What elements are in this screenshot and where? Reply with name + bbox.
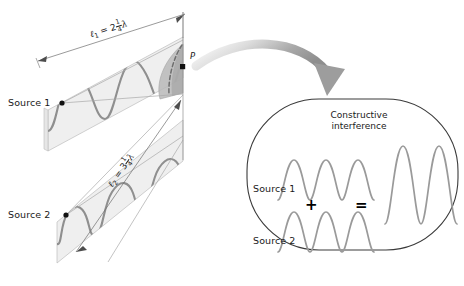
source2-dot — [63, 212, 68, 217]
path1-equals: = — [99, 24, 109, 36]
equals-operator: = — [355, 198, 368, 213]
path1-subscript: 1 — [93, 31, 99, 40]
point-p-dot — [180, 64, 185, 69]
callout-title-line1: Constructive — [313, 110, 405, 121]
source1-dot — [59, 100, 64, 105]
callout-source2-label: Source 2 — [253, 236, 296, 246]
figure-canvas — [0, 0, 464, 286]
callout-title: Constructive interference — [313, 110, 405, 133]
source2-label: Source 2 — [8, 210, 51, 220]
point-p-label: P — [190, 52, 195, 61]
callout-arrow — [196, 44, 345, 96]
source2-band — [57, 120, 183, 263]
interference-figure: Source 1 Source 2 P ℓ1 = 214λ ℓ2 = 314λ … — [0, 0, 464, 286]
callout-title-line2: interference — [313, 121, 405, 132]
source1-label: Source 1 — [8, 98, 51, 108]
callout-source1-label: Source 1 — [253, 184, 296, 194]
plus-operator: + — [305, 198, 318, 213]
